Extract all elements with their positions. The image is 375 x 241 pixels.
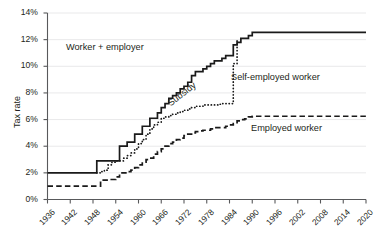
annotation-employed-worker: Employed worker bbox=[251, 123, 322, 133]
annotation-self-employed-worker: Self-employed worker bbox=[231, 72, 320, 82]
y-tick-label: 12% bbox=[4, 34, 38, 44]
y-tick-label: 8% bbox=[4, 87, 38, 97]
gridlines bbox=[48, 13, 367, 173]
y-tick-label: 2% bbox=[4, 167, 38, 177]
y-tick-label: 4% bbox=[4, 140, 38, 150]
series-layer bbox=[48, 32, 367, 186]
y-tick-label: 6% bbox=[4, 114, 38, 124]
y-tick-label: 0% bbox=[4, 194, 38, 204]
y-tick-label: 10% bbox=[4, 60, 38, 70]
series-line-worker-employer bbox=[48, 32, 367, 173]
annotation-worker-plus-employer: Worker + employer bbox=[66, 42, 144, 52]
y-tick-marks bbox=[44, 13, 48, 200]
x-tick-marks bbox=[48, 200, 367, 204]
y-tick-label: 14% bbox=[4, 7, 38, 17]
